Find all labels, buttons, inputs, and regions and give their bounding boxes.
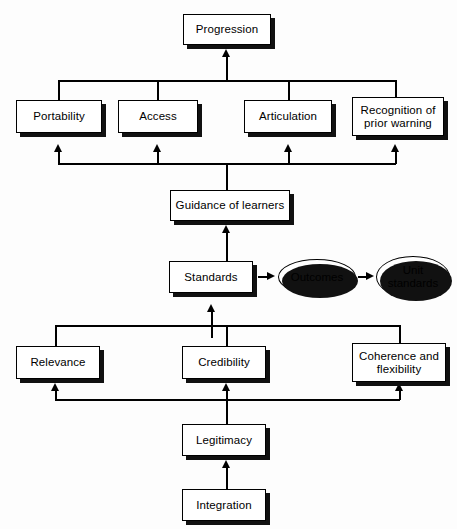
node-legitimacy[interactable]: Legitimacy — [182, 424, 266, 456]
node-unit-standards[interactable]: Unit standards — [376, 256, 450, 298]
connector-bus-top — [58, 80, 396, 82]
arrowhead-to-unit-standards — [366, 272, 374, 280]
connector-bus-quality-drop-credibility — [226, 325, 228, 346]
arrowhead-to-portability — [54, 144, 62, 152]
arrowhead-to-legitimacy — [222, 460, 230, 468]
arrowhead-to-guidance — [222, 225, 230, 233]
node-access-label: Access — [136, 110, 180, 123]
connector-bus-quality-drop-relevance — [55, 325, 57, 346]
node-unit-standards-label: Unit standards — [388, 264, 439, 290]
node-outcomes[interactable]: Outcomes — [278, 259, 356, 295]
node-relevance-label: Relevance — [27, 356, 88, 369]
node-progression-label: Progression — [193, 23, 261, 36]
node-recognition-label: Recognition of prior warning — [358, 104, 439, 130]
connector-bus-to-progression — [226, 57, 228, 81]
node-integration[interactable]: Integration — [182, 489, 266, 521]
node-recognition-of-prior-warning[interactable]: Recognition of prior warning — [352, 97, 444, 136]
connector-bus-top-drop-access — [157, 80, 159, 100]
flow-diagram: Progression Portability Access Articulat… — [0, 0, 457, 529]
node-portability-label: Portability — [30, 110, 88, 123]
node-credibility[interactable]: Credibility — [182, 346, 266, 379]
node-portability[interactable]: Portability — [16, 100, 102, 133]
node-relevance[interactable]: Relevance — [16, 346, 100, 379]
arrowhead-to-relevance — [51, 383, 59, 391]
arrowhead-to-coherence — [395, 383, 403, 391]
node-standards-label: Standards — [181, 271, 240, 284]
node-articulation-label: Articulation — [256, 110, 320, 123]
arrowhead-to-articulation — [284, 144, 292, 152]
node-integration-label: Integration — [193, 499, 254, 512]
arrowhead-to-outcomes — [267, 272, 275, 280]
connector-guidance-riser — [226, 163, 228, 191]
connector-bus-top-drop-portability — [58, 80, 60, 100]
arrowhead-to-credibility — [222, 383, 230, 391]
node-coherence-and-flexibility[interactable]: Coherence and flexibility — [352, 343, 446, 382]
node-progression[interactable]: Progression — [183, 14, 271, 45]
connector-standards-to-guidance — [226, 233, 228, 261]
arrowhead-to-progression — [222, 49, 230, 57]
node-credibility-label: Credibility — [195, 356, 253, 369]
node-articulation[interactable]: Articulation — [244, 100, 332, 133]
node-guidance-label: Guidance of learners — [173, 199, 288, 212]
node-outcomes-label: Outcomes — [291, 271, 343, 284]
node-access[interactable]: Access — [118, 100, 198, 133]
node-guidance-of-learners[interactable]: Guidance of learners — [170, 190, 290, 221]
connector-integration-to-legitimacy — [226, 468, 228, 490]
node-standards[interactable]: Standards — [169, 261, 253, 293]
connector-bus-top-drop-articulation — [288, 80, 290, 100]
node-coherence-label: Coherence and flexibility — [356, 350, 442, 376]
arrowhead-to-recognition — [391, 144, 399, 152]
arrowhead-to-access — [153, 144, 161, 152]
arrowhead-to-standards — [207, 304, 215, 312]
node-legitimacy-label: Legitimacy — [193, 434, 255, 447]
